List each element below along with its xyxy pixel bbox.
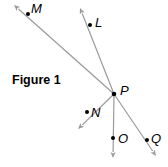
point-l [88, 23, 92, 27]
point-p-vertex [112, 92, 117, 97]
arrowhead-icon [80, 8, 85, 15]
point-o [111, 136, 115, 140]
point-label-m: M [31, 1, 42, 16]
point-label-q: Q [151, 131, 161, 146]
point-label-p: P [120, 83, 129, 98]
ray-diagram: Figure 1 MLNOQP [0, 0, 168, 167]
point-n [85, 110, 89, 114]
arrowhead-icon [150, 150, 156, 156]
point-m [26, 12, 30, 16]
arrowhead-icon [110, 152, 115, 158]
point-label-l: L [95, 15, 102, 30]
ray-po [113, 94, 114, 152]
point-label-n: N [91, 105, 101, 120]
figure-title: Figure 1 [12, 73, 61, 87]
point-label-o: O [118, 131, 128, 146]
point-q [145, 138, 149, 142]
